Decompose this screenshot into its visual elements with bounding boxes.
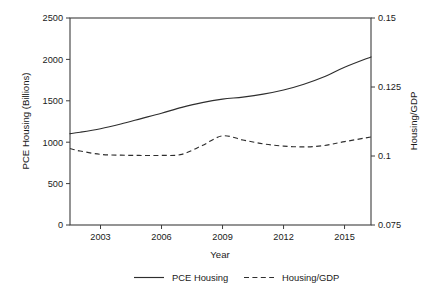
y2-tick-label: 0.125 <box>378 82 401 92</box>
legend-label-pce-housing: PCE Housing <box>172 272 228 283</box>
x-axis-ticks <box>101 225 345 229</box>
x-axis-tick-labels: 20032006200920122015 <box>90 232 355 242</box>
y2-axis-tick-labels: 0.0750.10.1250.15 <box>378 13 401 230</box>
x-tick-label: 2012 <box>273 232 293 242</box>
y-tick-label: 1500 <box>43 96 63 106</box>
x-tick-label: 2003 <box>90 232 110 242</box>
y-axis-ticks <box>66 18 70 225</box>
y2-tick-label: 0.1 <box>378 151 391 161</box>
y2-tick-label: 0.15 <box>378 13 396 23</box>
y2-axis-ticks <box>371 18 375 225</box>
y-tick-label: 1000 <box>43 138 63 148</box>
chart-figure: 05001000150020002500 0.0750.10.1250.15 2… <box>0 0 435 298</box>
y2-tick-label: 0.075 <box>378 220 401 230</box>
chart-legend: PCE Housing Housing/GDP <box>134 272 339 283</box>
y-tick-label: 2500 <box>43 13 63 23</box>
x-tick-label: 2015 <box>334 232 354 242</box>
y-axis-title: PCE Housing (Billions) <box>20 72 31 169</box>
y-tick-label: 2000 <box>43 55 63 65</box>
series-line-housing-gdp <box>70 136 371 156</box>
x-tick-label: 2009 <box>212 232 232 242</box>
y-axis-tick-labels: 05001000150020002500 <box>43 13 63 230</box>
x-axis-title: Year <box>210 249 230 260</box>
legend-label-housing-gdp: Housing/GDP <box>282 272 339 283</box>
x-tick-label: 2006 <box>151 232 171 242</box>
series-group <box>70 57 371 156</box>
y-tick-label: 500 <box>48 179 63 189</box>
y-tick-label: 0 <box>58 220 63 230</box>
series-line-pce-housing <box>70 57 371 134</box>
y2-axis-title: Housing/GDP <box>408 92 419 151</box>
chart-svg: 05001000150020002500 0.0750.10.1250.15 2… <box>0 0 435 298</box>
plot-frame <box>70 18 371 225</box>
